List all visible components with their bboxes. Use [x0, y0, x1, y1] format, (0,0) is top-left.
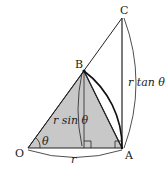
label-a: A: [124, 149, 134, 162]
label-o: O: [15, 147, 24, 160]
label-c: C: [120, 4, 128, 17]
label-theta: θ: [42, 135, 49, 148]
label-r: r: [71, 153, 77, 166]
label-r-sin-theta: r sin θ: [53, 114, 88, 127]
trig-diagram: O A B C θ r r sin θ r tan θ: [0, 0, 168, 173]
point-a: [121, 147, 123, 149]
label-b: B: [75, 58, 83, 71]
label-r-tan-theta: r tan θ: [128, 76, 165, 89]
